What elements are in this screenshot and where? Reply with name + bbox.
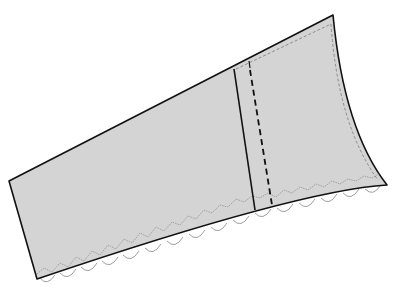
fabric-panel <box>9 15 387 279</box>
fabric-diagram <box>0 0 396 290</box>
